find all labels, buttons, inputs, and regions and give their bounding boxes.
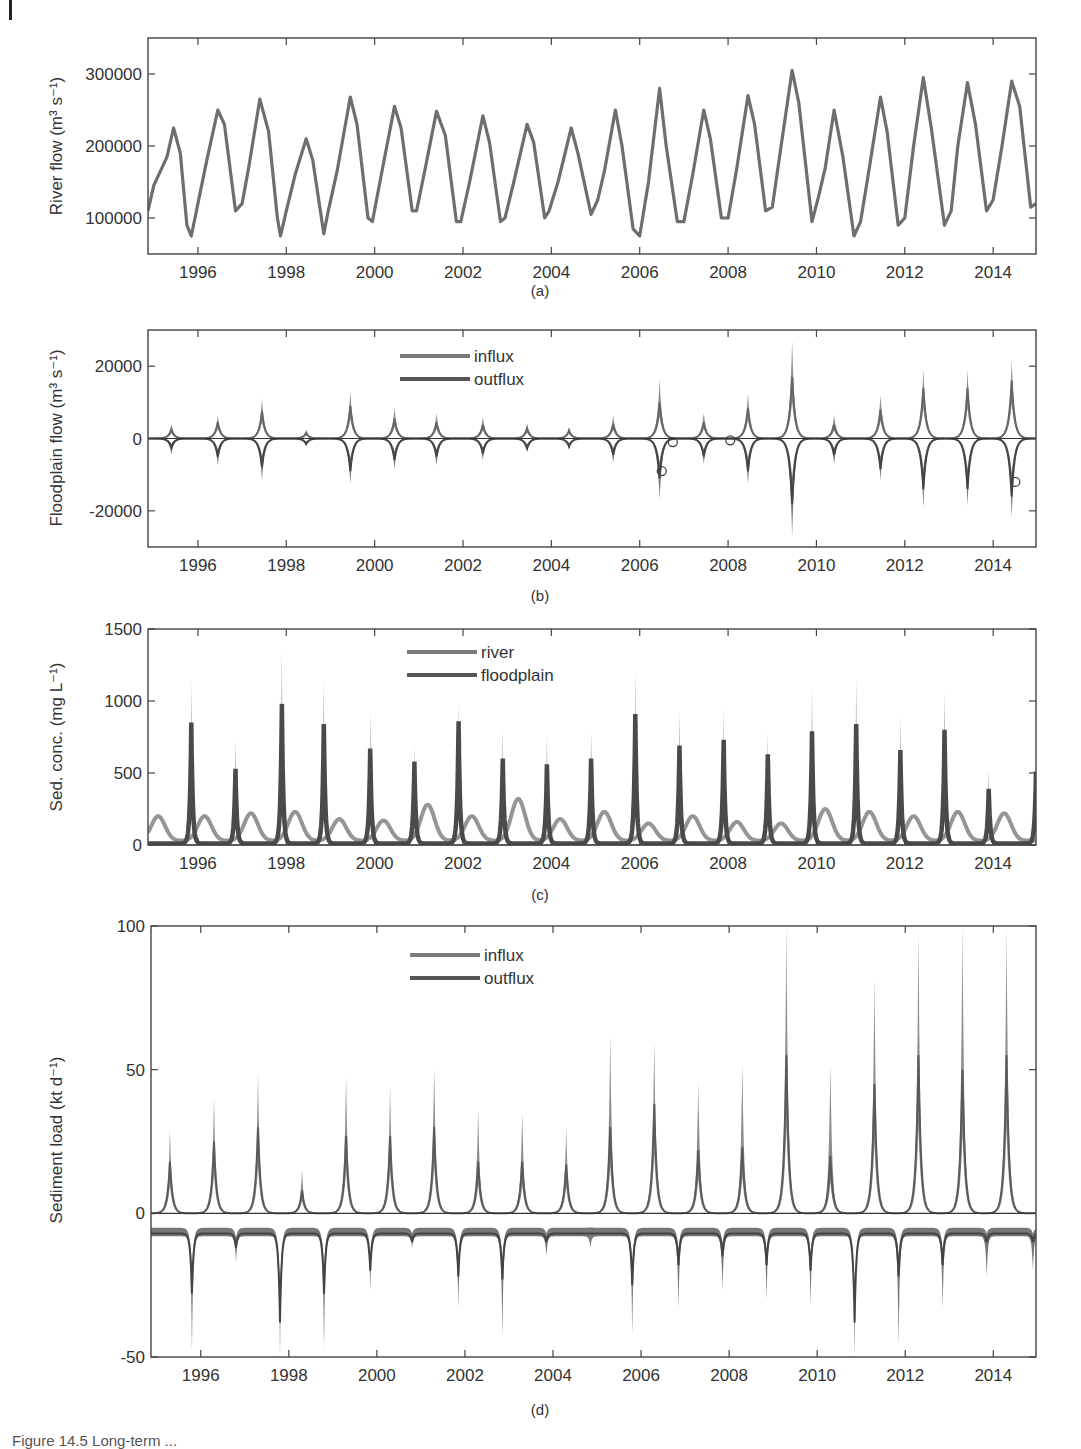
x-tick-label: 2008 — [709, 263, 747, 282]
x-tick-label: 2014 — [974, 1366, 1012, 1385]
y-tick-label: 0 — [133, 430, 142, 449]
x-tick-label: 2002 — [446, 1366, 484, 1385]
x-tick-label: 2012 — [886, 556, 924, 575]
y-tick-label: -50 — [120, 1348, 145, 1367]
x-tick-label: 2012 — [886, 854, 924, 873]
legend-label: influx — [474, 347, 514, 366]
panel-d-sediment-load: 1996199820002002200420062008201020122014… — [47, 917, 1036, 1418]
x-tick-label: 1996 — [179, 263, 217, 282]
plot-area — [148, 70, 1036, 236]
x-tick-label: 2014 — [974, 854, 1012, 873]
x-tick-label: 2006 — [621, 854, 659, 873]
panel-c-sediment-concentration: 1996199820002002200420062008201020122014… — [47, 620, 1036, 903]
x-tick-label: 2006 — [622, 1366, 660, 1385]
x-tick-label: 1996 — [179, 556, 217, 575]
x-tick-label: 1998 — [270, 1366, 308, 1385]
y-tick-label: 20000 — [95, 357, 142, 376]
y-axis-label: Sediment load (kt d⁻¹) — [47, 1057, 66, 1224]
outflux-line — [148, 439, 1036, 504]
outflux-band — [148, 439, 1036, 537]
panel-label: (c) — [531, 886, 549, 903]
panel-a-river-flow: 1996199820002002200420062008201020122014… — [47, 38, 1036, 299]
x-tick-label: 2012 — [886, 263, 924, 282]
legend: influxoutflux — [400, 347, 525, 389]
x-tick-label: 2006 — [621, 263, 659, 282]
x-tick-label: 1996 — [179, 854, 217, 873]
y-tick-label: 100000 — [85, 209, 142, 228]
x-tick-label: 2002 — [444, 263, 482, 282]
x-tick-label: 2004 — [534, 1366, 572, 1385]
y-axis-label: River flow (m³ s⁻¹) — [47, 77, 66, 215]
legend-label: influx — [484, 946, 524, 965]
panel-b-floodplain-flow: 1996199820002002200420062008201020122014… — [47, 330, 1036, 604]
x-tick-label: 1996 — [182, 1366, 220, 1385]
plot-area — [148, 651, 1036, 844]
river-flow-line — [148, 70, 1036, 236]
y-tick-label: 200000 — [85, 137, 142, 156]
legend: riverfloodplain — [407, 643, 554, 685]
plot-area — [151, 926, 1036, 1357]
y-tick-label: -20000 — [89, 502, 142, 521]
floodplain-conc-line — [148, 704, 1036, 844]
x-tick-label: 2000 — [356, 263, 394, 282]
y-tick-label: 1500 — [104, 620, 142, 639]
y-axis-label: Sed. conc. (mg L⁻¹) — [47, 663, 66, 812]
x-tick-label: 2004 — [532, 556, 570, 575]
influx-band — [148, 341, 1036, 439]
x-tick-label: 2000 — [356, 556, 394, 575]
panel-label: (d) — [531, 1401, 549, 1418]
x-tick-label: 2008 — [710, 1366, 748, 1385]
x-tick-label: 2004 — [532, 263, 570, 282]
figure-caption: Figure 14.5 Long-term ... — [12, 1432, 177, 1449]
x-tick-label: 2000 — [356, 854, 394, 873]
x-tick-label: 2008 — [709, 854, 747, 873]
x-tick-label: 2004 — [532, 854, 570, 873]
panel-label: (b) — [531, 587, 549, 604]
y-tick-label: 0 — [136, 1204, 145, 1223]
legend-label: floodplain — [481, 666, 554, 685]
axis-frame — [151, 926, 1036, 1357]
x-tick-label: 2000 — [358, 1366, 396, 1385]
y-tick-label: 500 — [114, 764, 142, 783]
influx-line — [151, 1055, 1036, 1213]
y-tick-label: 50 — [126, 1061, 145, 1080]
legend-label: outflux — [474, 370, 525, 389]
x-tick-label: 2006 — [621, 556, 659, 575]
x-tick-label: 2010 — [798, 1366, 836, 1385]
outflux-line — [151, 1233, 1036, 1322]
y-tick-label: 0 — [133, 836, 142, 855]
x-tick-label: 2012 — [886, 1366, 924, 1385]
influx-line — [148, 377, 1036, 439]
y-axis-label: Floodplain flow (m³ s⁻¹) — [47, 349, 66, 526]
x-tick-label: 2010 — [798, 263, 836, 282]
legend: influxoutflux — [410, 946, 535, 988]
outlier-marker — [726, 436, 735, 445]
y-tick-label: 100 — [117, 917, 145, 936]
influx-band — [151, 926, 1036, 1213]
x-tick-label: 2002 — [444, 854, 482, 873]
y-tick-label: 300000 — [85, 65, 142, 84]
x-tick-label: 2014 — [974, 263, 1012, 282]
x-tick-label: 2010 — [798, 854, 836, 873]
legend-label: river — [481, 643, 514, 662]
x-tick-label: 2002 — [444, 556, 482, 575]
x-tick-label: 1998 — [267, 263, 305, 282]
x-tick-label: 2014 — [974, 556, 1012, 575]
x-tick-label: 1998 — [267, 556, 305, 575]
x-tick-label: 1998 — [267, 854, 305, 873]
panel-label: (a) — [531, 282, 549, 299]
legend-label: outflux — [484, 969, 535, 988]
x-tick-label: 2008 — [709, 556, 747, 575]
y-tick-label: 1000 — [104, 692, 142, 711]
x-tick-label: 2010 — [798, 556, 836, 575]
